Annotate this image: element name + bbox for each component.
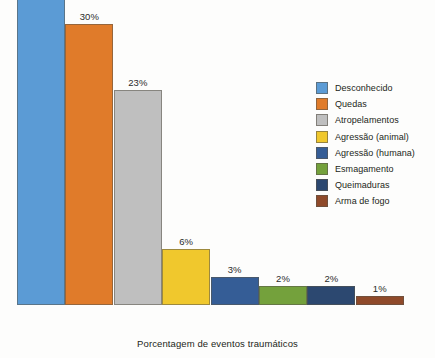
chart-legend: DesconhecidoQuedasAtropelamentosAgressão…: [316, 80, 434, 210]
legend-item[interactable]: Esmagamento: [316, 161, 434, 177]
bar[interactable]: [307, 286, 355, 305]
legend-item-label: Queimaduras: [335, 180, 390, 190]
bar[interactable]: [211, 277, 259, 305]
bar-value-label: 30%: [80, 11, 99, 22]
legend-swatch-icon: [316, 98, 328, 110]
legend-item-label: Agressão (humana): [335, 148, 415, 158]
legend-item[interactable]: Arma de fogo: [316, 193, 434, 209]
legend-swatch-icon: [316, 131, 328, 143]
legend-item-label: Esmagamento: [335, 164, 394, 174]
legend-item[interactable]: Agressão (animal): [316, 129, 434, 145]
bar-chart: 33%30%23%6%3%2%2%1% DesconhecidoQuedasAt…: [0, 0, 435, 358]
bar-group: 3%: [211, 277, 259, 305]
bar[interactable]: [114, 90, 162, 305]
bar[interactable]: [65, 24, 113, 305]
bar-group: 23%: [114, 90, 162, 305]
legend-swatch-icon: [316, 82, 328, 94]
bar-value-label: 23%: [128, 77, 147, 88]
bar-value-label: 2%: [276, 273, 290, 284]
legend-item[interactable]: Atropelamentos: [316, 112, 434, 128]
bar-group: 6%: [162, 249, 210, 305]
bar[interactable]: [17, 0, 65, 305]
legend-item-label: Arma de fogo: [335, 196, 390, 206]
bar-group: 33%: [17, 0, 65, 305]
bar-value-label: 1%: [373, 283, 387, 294]
legend-item-label: Quedas: [335, 99, 367, 109]
legend-item[interactable]: Desconhecido: [316, 80, 434, 96]
legend-swatch-icon: [316, 147, 328, 159]
bar-group: 30%: [65, 24, 113, 305]
bar-value-label: 2%: [324, 273, 338, 284]
legend-item-label: Atropelamentos: [335, 115, 399, 125]
legend-item-label: Desconhecido: [335, 83, 393, 93]
bar-group: 2%: [259, 286, 307, 305]
legend-item-label: Agressão (animal): [335, 132, 409, 142]
bar-value-label: 6%: [179, 236, 193, 247]
legend-swatch-icon: [316, 114, 328, 126]
chart-caption: Porcentagem de eventos traumáticos: [0, 338, 435, 349]
bar[interactable]: [162, 249, 210, 305]
bar[interactable]: [356, 296, 404, 305]
legend-item[interactable]: Agressão (humana): [316, 145, 434, 161]
legend-swatch-icon: [316, 179, 328, 191]
bar[interactable]: [259, 286, 307, 305]
bar-group: 2%: [307, 286, 355, 305]
legend-swatch-icon: [316, 163, 328, 175]
legend-item[interactable]: Quedas: [316, 96, 434, 112]
bar-group: 1%: [356, 296, 404, 305]
legend-swatch-icon: [316, 195, 328, 207]
bar-value-label: 3%: [228, 264, 242, 275]
legend-item[interactable]: Queimaduras: [316, 177, 434, 193]
